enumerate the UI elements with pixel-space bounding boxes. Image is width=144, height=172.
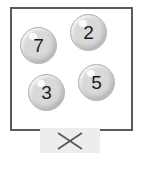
ball-label: 3 <box>29 75 64 110</box>
ball-5[interactable]: 5 <box>78 64 115 101</box>
ball-label: 7 <box>21 28 56 63</box>
ball-label: 5 <box>79 65 114 100</box>
ball-2[interactable]: 2 <box>70 14 107 51</box>
ball-7[interactable]: 7 <box>20 27 57 64</box>
scene-root: 7235 <box>0 0 144 172</box>
ball-label: 2 <box>71 15 106 50</box>
close-button[interactable] <box>40 128 100 153</box>
ball-container: 7235 <box>10 7 133 131</box>
ball-3[interactable]: 3 <box>28 74 65 111</box>
close-x-icon <box>56 130 84 152</box>
